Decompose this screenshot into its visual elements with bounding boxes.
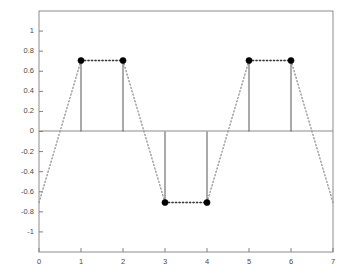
x-tick-label: 6 [289, 257, 293, 266]
y-tick-label: -0.4 [21, 167, 34, 176]
y-tick-label: 0 [30, 126, 34, 135]
data-point-marker [120, 57, 126, 63]
data-point-marker [288, 57, 294, 63]
y-tick-label: 1 [30, 26, 34, 35]
data-point-marker [204, 199, 210, 205]
x-tick-label: 3 [163, 257, 167, 266]
x-tick-label: 7 [331, 257, 335, 266]
y-tick-label: -0.8 [21, 207, 34, 216]
data-point-marker [246, 57, 252, 63]
y-tick-label: 0.6 [24, 66, 34, 75]
figure-panel: 10.80.60.40.20-0.2-0.4-0.6-0.8-1 0123456… [0, 0, 346, 273]
stem-plot: 10.80.60.40.20-0.2-0.4-0.6-0.8-1 0123456… [0, 0, 346, 273]
x-tick-label: 1 [79, 257, 83, 266]
y-tick-label: 0.4 [24, 86, 34, 95]
y-tick-label: -0.2 [21, 147, 34, 156]
x-tick-label: 0 [37, 257, 41, 266]
x-tick-label: 5 [247, 257, 251, 266]
y-tick-label: -1 [27, 227, 34, 236]
data-point-marker [78, 57, 84, 63]
x-tick-label: 2 [121, 257, 125, 266]
x-tick-label: 4 [205, 257, 209, 266]
y-tick-label: 0.8 [24, 46, 34, 55]
data-point-marker [162, 199, 168, 205]
y-tick-label: 0.2 [24, 106, 34, 115]
x-axis-ticks: 01234567 [37, 248, 335, 266]
y-tick-label: -0.6 [21, 187, 34, 196]
